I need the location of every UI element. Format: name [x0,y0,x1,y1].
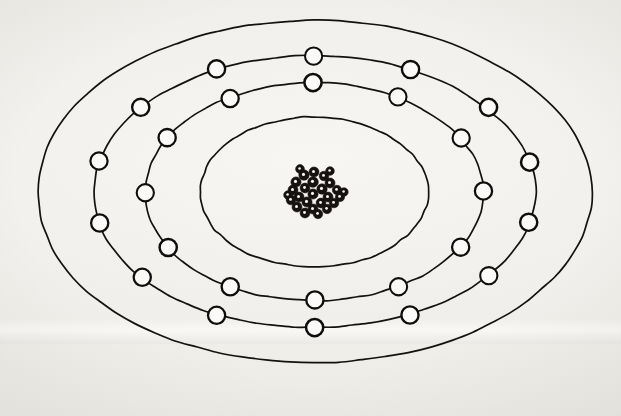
electron-2-9 [208,307,225,324]
nucleon-highlight-7 [303,186,306,189]
nucleon-highlight-14 [289,198,292,201]
electron-2-5 [520,214,537,231]
electron-2-2 [402,61,419,78]
nucleon-highlight-27 [342,190,345,193]
nucleon-highlight-12 [297,195,300,198]
electron-2-6 [480,267,497,284]
nucleon-highlight-10 [335,188,338,191]
electron-2-1 [305,48,322,65]
electron-2-10 [134,269,151,286]
electron-3-11 [159,129,176,146]
nucleon-highlight-22 [303,211,306,214]
nucleon-highlight-21 [325,207,328,210]
electron-2-4 [521,154,538,171]
electron-3-5 [452,239,469,256]
electron-3-6 [390,278,407,295]
nucleon-highlight-4 [294,180,297,183]
nucleon-highlight-3 [322,174,325,177]
nucleon-highlight-2 [302,173,305,176]
nucleon-highlight-8 [320,187,323,190]
electron-2-11 [91,214,108,231]
nucleon-highlight-5 [311,180,314,183]
electron-2-13 [132,99,149,116]
nucleon-highlight-24 [298,167,301,170]
nucleon-highlight-23 [316,212,319,215]
electron-3-3 [453,129,470,146]
nucleon-highlight-18 [332,201,335,204]
nucleon-highlight-15 [338,195,341,198]
electron-3-8 [222,278,239,295]
nucleon-highlight-13 [326,195,329,198]
nucleon-highlight-6 [328,181,331,184]
nucleon-highlight-1 [312,170,315,173]
electron-3-1 [304,74,321,91]
electron-2-14 [208,60,225,77]
figure-canvas: Bohr atomic model sketch Hand-drawn diag… [0,0,621,416]
electron-3-2 [389,88,406,105]
nucleon-highlight-19 [295,205,298,208]
electron-3-10 [137,184,154,201]
electron-3-4 [475,182,492,199]
nucleon-highlight-26 [286,193,289,196]
electron-3-7 [306,291,323,308]
electron-2-7 [401,306,418,323]
nucleon-highlight-9 [291,188,294,191]
nucleus-cluster [284,165,348,219]
bohr-atomic-model-diagram: Bohr atomic model sketch Hand-drawn diag… [0,0,621,416]
nucleon-highlight-17 [319,201,322,204]
electron-2-8 [306,319,323,336]
electron-2-12 [90,152,107,169]
electron-2-3 [480,99,497,116]
electron-3-9 [160,239,177,256]
nucleon-highlight-20 [311,207,314,210]
nucleon-highlight-25 [328,169,331,172]
nucleon-highlight-16 [305,200,308,203]
nucleon-highlight-11 [311,192,314,195]
electron-3-12 [222,90,239,107]
